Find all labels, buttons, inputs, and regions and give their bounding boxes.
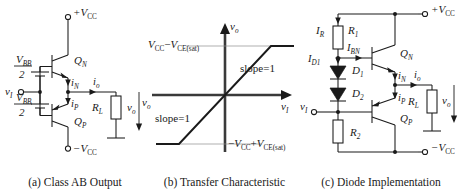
label-output-voltage: vo bbox=[127, 101, 136, 116]
terminal-negative-supply bbox=[65, 146, 70, 151]
label-negative-supply: −VCC bbox=[73, 142, 97, 157]
label-load-resistor: RL bbox=[91, 101, 103, 116]
label-transistor-qn: QN bbox=[400, 47, 414, 62]
label-input: vI bbox=[5, 85, 13, 100]
node-input-junction bbox=[38, 90, 42, 94]
label-bias-top-denominator: 2 bbox=[19, 68, 25, 80]
terminal-negative-supply bbox=[422, 149, 427, 154]
label-output-voltage: vo bbox=[442, 94, 451, 109]
diode-d2-triangle bbox=[330, 88, 346, 101]
label-current-io: io bbox=[414, 69, 421, 83]
label-positive-supply: +VCC bbox=[73, 6, 97, 21]
schematic-class-ab-output: +VCC −VCC vI VBB 2 VBB 2 QN QP iN iP io … bbox=[0, 0, 150, 165]
label-y-axis: vo bbox=[230, 20, 239, 35]
y-axis-arrowhead bbox=[220, 23, 230, 34]
label-resistor-r1: R1 bbox=[347, 24, 358, 39]
figure-class-ab-output-stages: +VCC −VCC vI VBB 2 VBB 2 QN QP iN iP io … bbox=[0, 0, 462, 192]
terminal-input bbox=[311, 109, 316, 114]
label-lower-saturation-limit: −VCC+VCE(sat) bbox=[228, 137, 286, 152]
label-resistor-r2: R2 bbox=[349, 126, 361, 141]
label-transistor-qn: QN bbox=[74, 54, 88, 69]
arrow-qn-emitter bbox=[61, 73, 68, 78]
wire-qp-collector bbox=[372, 117, 395, 125]
label-bias-bottom-denominator: 2 bbox=[19, 106, 25, 118]
panel-transfer-characteristic: vo vI vo slope=1 slope=1 VCC−VCE(sat) −V… bbox=[142, 0, 307, 192]
node-output bbox=[66, 90, 70, 94]
label-bias-bottom-numerator: VBB bbox=[16, 91, 32, 106]
resistor-r2 bbox=[333, 120, 343, 143]
arrow-id1-current bbox=[335, 58, 341, 65]
label-current-ibn: IBN bbox=[346, 42, 361, 56]
label-transistor-qp: QP bbox=[74, 115, 87, 130]
terminal-positive-supply bbox=[422, 11, 427, 16]
label-transistor-qp: QP bbox=[400, 112, 413, 127]
label-current-ir: IR bbox=[315, 24, 325, 39]
label-slope-upper: slope=1 bbox=[240, 62, 275, 74]
label-upper-saturation-limit: VCC−VCE(sat) bbox=[148, 38, 200, 53]
terminal-positive-supply bbox=[65, 14, 70, 19]
label-current-ip: iP bbox=[398, 92, 406, 106]
label-bias-top-numerator: VBB bbox=[16, 53, 32, 68]
arrow-output-current bbox=[90, 89, 97, 95]
arrow-in-current bbox=[392, 74, 398, 81]
resistor-r1 bbox=[333, 26, 343, 49]
wire-qn-collector bbox=[52, 55, 68, 61]
label-current-in: iN bbox=[71, 77, 80, 91]
schematic-diode-implementation: +VCC −VCC vI IR R1 IBN ID1 D1 D2 R2 QN Q… bbox=[300, 0, 462, 165]
arrow-ibn-current bbox=[356, 55, 363, 61]
label-current-ip: iP bbox=[71, 98, 79, 112]
label-diode-d2: D2 bbox=[351, 87, 364, 102]
x-axis-arrowhead bbox=[281, 90, 292, 100]
label-current-in: iN bbox=[398, 70, 407, 84]
resistor-load bbox=[111, 96, 121, 119]
diode-d1-triangle bbox=[330, 66, 346, 79]
arrow-ip-current bbox=[392, 93, 398, 100]
chart-transfer-characteristic: vo vI vo slope=1 slope=1 VCC−VCE(sat) −V… bbox=[142, 0, 307, 165]
panel-b-caption: (b) Transfer Characteristic bbox=[142, 176, 307, 188]
label-positive-supply: +VCC bbox=[431, 3, 455, 18]
panel-class-ab-output: +VCC −VCC vI VBB 2 VBB 2 QN QP iN iP io … bbox=[0, 0, 150, 192]
panel-diode-implementation: +VCC −VCC vI IR R1 IBN ID1 D1 D2 R2 QN Q… bbox=[300, 0, 462, 192]
arrow-in-current bbox=[65, 80, 71, 87]
wire-qp-collector bbox=[52, 121, 68, 127]
arrow-qp-emitter bbox=[372, 101, 380, 106]
label-load-resistor: RL bbox=[407, 95, 419, 110]
label-diode-d1: D1 bbox=[351, 64, 364, 79]
panel-c-caption: (c) Diode Implementation bbox=[300, 176, 462, 188]
arrow-vo-head bbox=[451, 116, 457, 124]
arrow-output-current bbox=[411, 82, 418, 88]
label-current-io: io bbox=[93, 76, 100, 90]
label-x-axis: vI bbox=[281, 100, 289, 115]
arrow-ip-current bbox=[65, 98, 71, 105]
arrow-ir-current bbox=[335, 18, 341, 25]
label-negative-supply: −VCC bbox=[431, 141, 455, 156]
wire-qn-collector bbox=[372, 45, 395, 53]
resistor-load bbox=[427, 90, 437, 113]
label-slope-lower: slope=1 bbox=[155, 112, 190, 124]
label-vo-left: vo bbox=[142, 96, 151, 111]
panel-a-caption: (a) Class AB Output bbox=[0, 176, 150, 188]
label-input: vI bbox=[300, 100, 308, 115]
arrow-qn-emitter bbox=[387, 67, 395, 72]
arrow-qp-emitter bbox=[52, 105, 59, 110]
label-current-id1: ID1 bbox=[307, 53, 320, 67]
